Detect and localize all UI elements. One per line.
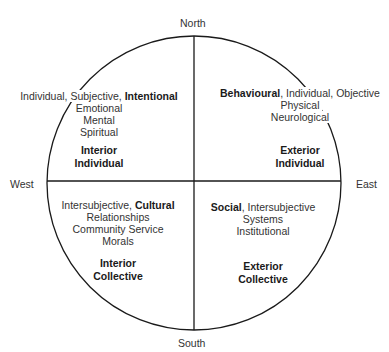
quadrant-heading-line: Social, Intersubjective (202, 201, 324, 213)
quadrant-title: Collective (202, 273, 324, 286)
item-text: Mental (81, 114, 117, 126)
quadrant-title: Individual (14, 157, 184, 170)
item-text: Morals (50, 235, 186, 247)
quadrant-title: Exterior (214, 144, 386, 157)
quadrant-interior-individual: Individual, Subjective, Intentional Emot… (14, 90, 184, 170)
quadrant-title: Interior (14, 144, 184, 157)
item-text: Institutional (202, 225, 324, 237)
descriptor-text: , Individual, Objective (280, 87, 380, 99)
quadrant-title: Interior (50, 257, 186, 270)
compass-west-label: West (10, 178, 34, 190)
quadrant-heading-line: Intersubjective, Cultural (50, 199, 186, 211)
item-text: Systems (202, 213, 324, 225)
item-text: Community Service (50, 223, 186, 235)
descriptor-text: , Intersubjective (242, 201, 316, 213)
quadrant-heading-line: Behavioural, Individual, Objective (214, 87, 386, 99)
quadrant-title: Individual (214, 157, 386, 170)
item-text: Neurological (269, 111, 331, 123)
quadrant-exterior-collective: Social, Intersubjective Systems Institut… (202, 201, 324, 286)
quadrant-interior-collective: Intersubjective, Cultural Relationships … (50, 199, 186, 283)
item-text: Emotional (74, 102, 125, 114)
compass-north-label: North (180, 17, 206, 29)
descriptor-bold-text: Intentional (125, 90, 178, 102)
quadrant-heading-line: Individual, Subjective, Intentional (14, 90, 184, 102)
item-text: Relationships (50, 211, 186, 223)
compass-south-label: South (178, 337, 205, 349)
descriptor-bold-text: Cultural (135, 199, 175, 211)
item-text: Spiritual (78, 126, 120, 138)
quadrant-title: Collective (50, 270, 186, 283)
descriptor-text: Individual, Subjective, (20, 90, 124, 102)
item-text: Physical (278, 99, 321, 111)
quadrant-circle-diagram (0, 0, 389, 352)
descriptor-text: Intersubjective, (61, 199, 135, 211)
descriptor-bold-text: Behavioural (220, 87, 280, 99)
quadrant-title: Exterior (202, 260, 324, 273)
compass-east-label: East (356, 178, 377, 190)
descriptor-bold-text: Social (211, 201, 242, 213)
quadrant-exterior-individual: Behavioural, Individual, Objective Physi… (214, 87, 386, 170)
